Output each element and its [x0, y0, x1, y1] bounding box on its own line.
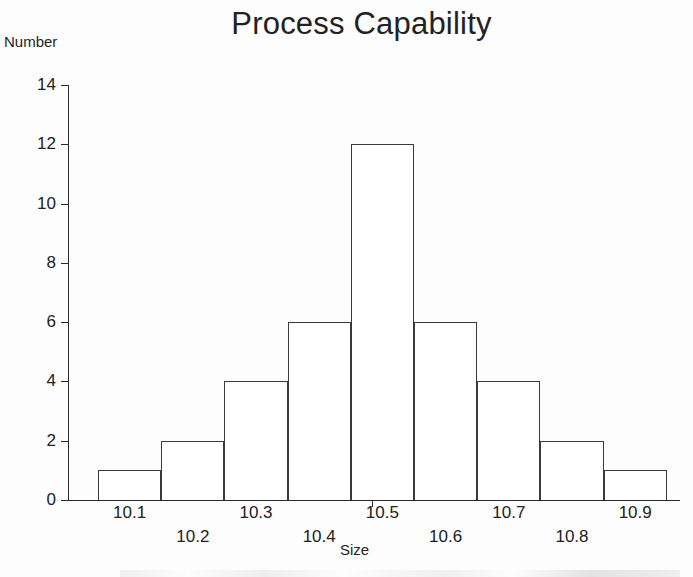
x-tick-label: 10.6 — [429, 527, 462, 547]
plot-area: 02468101214 — [68, 85, 680, 500]
y-tick-label: 10 — [37, 194, 56, 214]
histogram-bar — [540, 441, 603, 500]
x-tick-label: 10.4 — [303, 527, 336, 547]
y-tick-12: 12 — [61, 144, 68, 145]
y-tick-8: 8 — [61, 263, 68, 264]
histogram-bar — [477, 381, 540, 500]
x-axis-line — [68, 500, 680, 501]
y-tick-label: 4 — [47, 371, 56, 391]
chart-title: Process Capability — [0, 6, 693, 42]
histogram-bar — [161, 441, 224, 500]
y-tick-14: 14 — [61, 85, 68, 86]
histogram-bar — [604, 470, 667, 500]
histogram-bar — [98, 470, 161, 500]
x-tick-label: 10.5 — [366, 503, 399, 523]
y-tick-label: 6 — [47, 312, 56, 332]
x-tick-label: 10.7 — [492, 503, 525, 523]
histogram-bar — [288, 322, 351, 500]
y-tick-6: 6 — [61, 322, 68, 323]
x-tick-label: 10.2 — [176, 527, 209, 547]
chart-page: Process Capability Number 02468101214 10… — [0, 0, 693, 577]
x-tick-label: 10.8 — [555, 527, 588, 547]
histogram-bar — [351, 144, 414, 500]
y-tick-4: 4 — [61, 381, 68, 382]
histogram-bar — [224, 381, 287, 500]
y-tick-10: 10 — [61, 204, 68, 205]
y-tick-label: 8 — [47, 253, 56, 273]
scan-artifact — [120, 570, 680, 577]
y-tick-0: 0 — [61, 500, 68, 501]
x-axis-center-tick — [372, 501, 373, 507]
y-axis-title: Number — [4, 33, 57, 50]
x-tick-label: 10.1 — [113, 503, 146, 523]
y-tick-label: 0 — [47, 490, 56, 510]
histogram-bar — [414, 322, 477, 500]
y-tick-label: 14 — [37, 75, 56, 95]
y-tick-2: 2 — [61, 441, 68, 442]
x-axis-title: Size — [340, 541, 369, 558]
y-tick-label: 12 — [37, 134, 56, 154]
y-tick-label: 2 — [47, 431, 56, 451]
y-axis-line — [68, 85, 69, 500]
x-tick-label: 10.9 — [619, 503, 652, 523]
x-tick-label: 10.3 — [239, 503, 272, 523]
